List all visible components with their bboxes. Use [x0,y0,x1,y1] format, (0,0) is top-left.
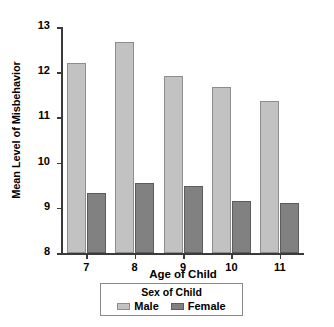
y-tick: 11 [57,117,62,119]
y-tick-label: 11 [38,109,50,121]
legend: Sex of Child MaleFemale [100,283,243,316]
x-tick [280,254,282,259]
legend-entries: MaleFemale [101,300,242,312]
legend-label-male: Male [134,300,158,312]
x-tick [183,254,185,259]
y-axis-title-text: Mean Level of Misbehavior [10,61,22,198]
bar-male-age-8 [115,42,134,253]
y-axis-line [61,27,63,254]
y-axis-title: Mean Level of Misbehavior [6,0,26,260]
bar-female-age-11 [280,203,299,253]
x-tick [231,254,233,259]
y-tick-label: 13 [38,19,50,31]
bar-chart-figure: Mean Level of Misbehavior 8910111213 789… [0,0,334,327]
y-tick: 9 [57,208,62,210]
y-tick: 13 [57,27,62,29]
bar-male-age-10 [212,87,231,253]
bar-female-age-7 [87,193,106,253]
y-tick: 10 [57,163,62,165]
bar-male-age-9 [164,76,183,253]
y-tick: 8 [57,253,62,255]
bar-female-age-8 [135,183,154,254]
bar-female-age-10 [232,201,251,253]
x-axis-title: Age of Child [62,268,304,280]
legend-entry-male: Male [117,300,158,312]
x-tick [86,254,88,259]
x-tick [135,254,137,259]
legend-swatch-icon-female [171,303,184,310]
legend-entry-female: Female [171,300,226,312]
y-tick-label: 9 [44,200,50,212]
y-tick-label: 12 [38,64,50,76]
plot-area: 8910111213 7891011 [62,27,304,253]
bar-male-age-7 [67,63,86,253]
bar-male-age-11 [260,101,279,253]
bar-female-age-9 [184,186,203,253]
y-tick-label: 8 [44,245,50,257]
y-tick: 12 [57,72,62,74]
y-tick-label: 10 [38,155,50,167]
legend-label-female: Female [188,300,226,312]
legend-swatch-icon-male [117,303,130,310]
legend-title: Sex of Child [101,286,242,299]
